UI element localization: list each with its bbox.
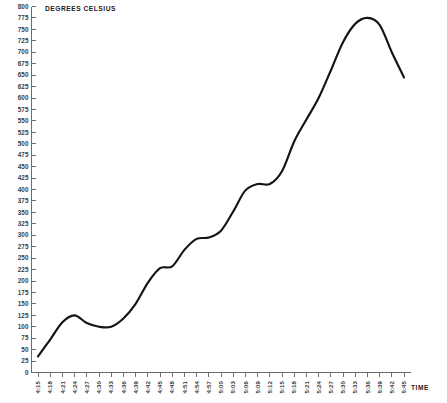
y-tick-label: 550 <box>18 117 29 124</box>
y-tick-label: 325 <box>18 220 29 227</box>
y-tick-label: 500 <box>18 140 29 147</box>
y-tick-label: 650 <box>18 71 29 78</box>
x-tick-label: 4:51 <box>181 381 188 394</box>
x-axis: 4:154:184:214:244:274:304:334:364:394:42… <box>32 373 411 394</box>
x-tick-label: 4:45 <box>156 381 163 394</box>
x-tick-label: 4:42 <box>144 381 151 394</box>
x-tick-label: 4:54 <box>193 381 200 394</box>
x-tick-label: 5:18 <box>290 381 297 394</box>
y-tick-label: 800 <box>18 3 29 10</box>
x-tick-label: 5:15 <box>278 381 285 394</box>
y-tick-label: 750 <box>18 26 29 33</box>
y-tick-label: 575 <box>18 106 29 113</box>
y-tick-label: 600 <box>18 94 29 101</box>
y-axis-title: DEGREES CELSIUS <box>45 5 116 12</box>
y-tick-label: 275 <box>18 243 29 250</box>
x-tick-label: 4:18 <box>46 381 53 394</box>
y-tick-label: 475 <box>18 151 29 158</box>
y-tick-label: 0 <box>25 369 29 376</box>
x-tick-label: 5:45 <box>400 381 407 394</box>
x-tick-label: 4:30 <box>95 381 102 394</box>
y-tick-label: 725 <box>18 37 29 44</box>
x-tick-label: 5:03 <box>229 381 236 394</box>
x-tick-label: 5:27 <box>327 381 334 394</box>
y-tick-label: 150 <box>18 300 29 307</box>
x-tick-label: 5:21 <box>303 381 310 394</box>
x-tick-label: 4:24 <box>71 381 78 394</box>
x-tick-label: 4:27 <box>83 381 90 394</box>
temperature-series-line <box>38 18 404 357</box>
y-tick-label: 625 <box>18 83 29 90</box>
y-tick-label: 700 <box>18 48 29 55</box>
x-axis-title: TIME <box>411 384 429 391</box>
y-tick-label: 400 <box>18 186 29 193</box>
y-tick-label: 100 <box>18 323 29 330</box>
y-tick-label: 425 <box>18 174 29 181</box>
y-tick-label: 225 <box>18 266 29 273</box>
y-tick-label: 375 <box>18 197 29 204</box>
y-tick-label: 175 <box>18 289 29 296</box>
y-tick-label: 125 <box>18 312 29 319</box>
y-tick-label: 350 <box>18 209 29 216</box>
y-tick-label: 200 <box>18 277 29 284</box>
y-tick-label: 675 <box>18 60 29 67</box>
x-tick-label: 5:09 <box>254 381 261 394</box>
y-tick-label: 300 <box>18 231 29 238</box>
chart-canvas: 0255075100125150175200225250275300325350… <box>0 0 447 403</box>
x-tick-label: 5:39 <box>376 381 383 394</box>
x-tick-label: 5:06 <box>242 381 249 394</box>
x-tick-label: 5:36 <box>364 381 371 394</box>
y-tick-label: 25 <box>21 357 29 364</box>
y-tick-label: 775 <box>18 14 29 21</box>
temperature-time-line-chart: 0255075100125150175200225250275300325350… <box>0 0 447 403</box>
x-tick-label: 5:12 <box>266 381 273 394</box>
x-tick-label: 4:39 <box>132 381 139 394</box>
y-tick-label: 75 <box>21 334 29 341</box>
x-tick-label: 5:33 <box>351 381 358 394</box>
x-tick-label: 4:21 <box>59 381 66 394</box>
x-tick-label: 4:33 <box>107 381 114 394</box>
y-tick-label: 50 <box>21 346 29 353</box>
x-tick-label: 4:15 <box>34 381 41 394</box>
x-tick-label: 5:00 <box>217 381 224 394</box>
y-tick-label: 525 <box>18 129 29 136</box>
x-tick-label: 4:36 <box>120 381 127 394</box>
y-tick-label: 450 <box>18 163 29 170</box>
x-tick-label: 5:42 <box>388 381 395 394</box>
x-tick-label: 4:57 <box>205 381 212 394</box>
x-tick-label: 5:24 <box>315 381 322 394</box>
x-tick-label: 4:48 <box>168 381 175 394</box>
y-axis: 0255075100125150175200225250275300325350… <box>18 3 36 376</box>
x-tick-label: 5:30 <box>339 381 346 394</box>
y-tick-label: 250 <box>18 254 29 261</box>
